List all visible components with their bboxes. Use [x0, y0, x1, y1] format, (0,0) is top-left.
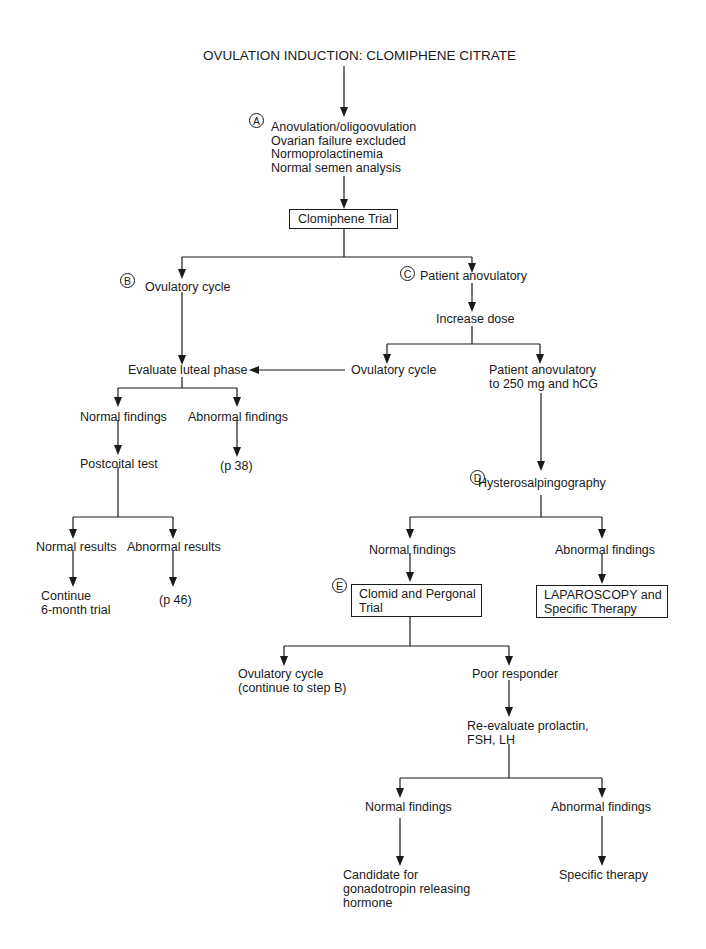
final-abnormal-findings: Abnormal findings	[551, 800, 651, 814]
line: Specific Therapy	[544, 602, 637, 616]
line: Continue	[41, 589, 91, 603]
page-ref-38: (p 38)	[220, 459, 253, 473]
criteria-item: Normal semen analysis	[271, 161, 401, 175]
criteria-list: Anovulation/oligoovulation Ovarian failu…	[271, 121, 416, 175]
ovulatory-cycle-c: Ovulatory cycle	[351, 363, 436, 377]
increase-dose: Increase dose	[436, 312, 515, 326]
patient-anovulatory-250: Patient anovulatory to 250 mg and hCG	[489, 363, 598, 391]
candidate-gnrh: Candidate for gonadotropin releasing hor…	[343, 868, 470, 910]
normal-results: Normal results	[36, 540, 117, 554]
evaluate-luteal-phase: Evaluate luteal phase	[128, 363, 248, 377]
continue-6-month-trial: Continue 6-month trial	[41, 589, 110, 617]
postcoital-test: Postcoital test	[80, 457, 158, 471]
laparoscopy-box: LAPAROSCOPY and Specific Therapy	[536, 585, 668, 618]
poor-responder: Poor responder	[472, 667, 558, 681]
clomiphene-trial-box: Clomiphene Trial	[289, 209, 398, 229]
step-marker-b: B	[120, 273, 135, 288]
line: (continue to step B)	[238, 681, 346, 695]
page-ref-46: (p 46)	[159, 593, 192, 607]
line: to 250 mg and hCG	[489, 377, 598, 391]
hsg-abnormal-findings: Abnormal findings	[555, 543, 655, 557]
line: gonadotropin releasing	[343, 882, 470, 896]
criteria-item: Anovulation/oligoovulation	[271, 120, 416, 134]
line: FSH, LH	[467, 733, 515, 747]
line: Re-evaluate prolactin,	[467, 719, 589, 733]
step-marker-a: A	[249, 113, 264, 128]
step-marker-e: E	[332, 578, 347, 593]
hysterosalpingography: Hysterosalpingography	[478, 476, 606, 490]
luteal-abnormal-findings: Abnormal findings	[188, 410, 288, 424]
patient-anovulatory: Patient anovulatory	[420, 269, 527, 283]
reevaluate-hormones: Re-evaluate prolactin, FSH, LH	[467, 719, 589, 747]
line: Trial	[359, 601, 383, 615]
criteria-item: Normoprolactinemia	[271, 147, 383, 161]
line: LAPAROSCOPY and	[544, 588, 662, 602]
line: 6-month trial	[41, 603, 110, 617]
specific-therapy: Specific therapy	[559, 868, 648, 882]
ovulatory-continue-step-b: Ovulatory cycle (continue to step B)	[238, 667, 346, 695]
ovulatory-cycle-b: Ovulatory cycle	[145, 280, 230, 294]
luteal-normal-findings: Normal findings	[80, 410, 167, 424]
hsg-normal-findings: Normal findings	[369, 543, 456, 557]
step-marker-c: C	[400, 266, 415, 281]
criteria-item: Ovarian failure excluded	[271, 134, 406, 148]
chart-title: OVULATION INDUCTION: CLOMIPHENE CITRATE	[203, 49, 516, 63]
flowchart: OVULATION INDUCTION: CLOMIPHENE CITRATE …	[0, 0, 706, 949]
clomid-pergonal-box: Clomid and Pergonal Trial	[351, 584, 482, 617]
line: Candidate for	[343, 868, 418, 882]
line: Ovulatory cycle	[238, 667, 323, 681]
line: Clomid and Pergonal	[359, 587, 476, 601]
abnormal-results: Abnormal results	[127, 540, 221, 554]
final-normal-findings: Normal findings	[365, 800, 452, 814]
line: hormone	[343, 896, 392, 910]
line: Patient anovulatory	[489, 363, 596, 377]
